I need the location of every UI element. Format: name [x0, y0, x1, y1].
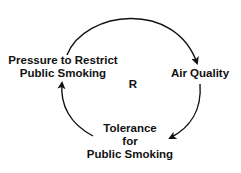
node-pressure-line2: Public Smoking — [8, 67, 118, 80]
node-tolerance-line2: for — [85, 135, 175, 148]
node-air-quality: Air Quality — [170, 67, 230, 80]
node-tolerance-line3: Public Smoking — [85, 148, 175, 161]
node-pressure: Pressure to Restrict Public Smoking — [8, 54, 118, 80]
node-tolerance-line1: Tolerance — [85, 122, 175, 135]
node-air-line1: Air Quality — [170, 67, 230, 80]
node-tolerance: Tolerance for Public Smoking — [85, 122, 175, 161]
node-pressure-line1: Pressure to Restrict — [8, 54, 118, 67]
loop-label: R — [126, 78, 140, 91]
